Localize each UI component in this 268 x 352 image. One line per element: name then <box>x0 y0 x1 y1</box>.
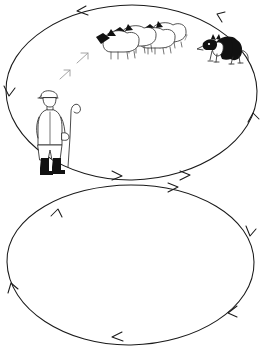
lower-loop-path <box>7 185 254 345</box>
lower-arrow-left <box>8 283 18 293</box>
sheep-flock <box>96 21 186 59</box>
movement-hint-2 <box>77 53 88 63</box>
lower-arrow-upper-left <box>51 209 62 217</box>
lower-arrow-bottom <box>112 332 123 341</box>
sheep-1 <box>96 29 139 59</box>
lower-arrow-upper-right <box>246 226 256 236</box>
herding-diagram-scene <box>0 0 268 352</box>
shepherd <box>37 91 81 175</box>
upper-arrow-top-right <box>217 12 225 22</box>
border-collie <box>197 34 248 64</box>
lower-arrow-lower-right <box>228 306 237 317</box>
upper-arrow-bottom-left <box>112 171 122 180</box>
lower-flow-loop <box>7 183 256 345</box>
movement-hint-1 <box>60 70 70 79</box>
diagram-canvas <box>0 0 268 352</box>
